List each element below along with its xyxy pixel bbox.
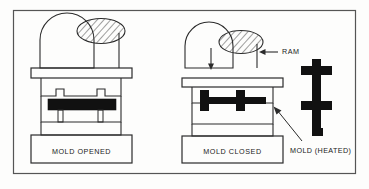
label-ram: RAM <box>282 47 300 56</box>
upper-platen-right <box>182 78 283 87</box>
caption-mold-opened: MOLD OPENED <box>52 147 111 156</box>
upper-mold-half-left <box>41 78 121 96</box>
detail-molded-part <box>301 59 332 136</box>
ram-hatched-ellipse-left <box>77 19 125 44</box>
panel-mold-closed: RAM MOLD CLOSED <box>182 22 300 163</box>
molded-part-beam-right <box>200 90 266 111</box>
part-peg-2-left <box>98 110 103 122</box>
lower-platen-left <box>41 122 121 135</box>
figure-root: MOLD OPENED <box>0 0 369 189</box>
ram-hatched-ellipse-right <box>219 31 263 54</box>
label-mold-heated: MOLD (HEATED) <box>290 146 351 155</box>
ram-motion-arrow-down <box>208 48 214 70</box>
upper-platen-left <box>31 68 132 78</box>
panel-mold-opened: MOLD OPENED <box>31 13 132 163</box>
detail-part-flange-lower <box>301 101 332 110</box>
ram-arrow-head-icon <box>259 49 266 55</box>
detail-part-foot <box>312 128 323 136</box>
compression-molding-diagram: MOLD OPENED <box>0 0 369 189</box>
molded-part-slab-left <box>48 99 116 110</box>
detail-part-flange-upper <box>301 66 332 75</box>
lower-platen-right <box>192 124 273 136</box>
caption-mold-closed: MOLD CLOSED <box>203 147 261 156</box>
ram-callout: RAM <box>259 47 300 56</box>
part-peg-1-left <box>58 110 63 122</box>
